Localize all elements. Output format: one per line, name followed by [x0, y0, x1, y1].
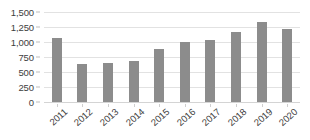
bar-2015 [154, 49, 164, 102]
x-axis-tick [185, 104, 186, 107]
bar-chart: 02505007501,0001,2501,500 20112012201320… [0, 0, 310, 140]
x-axis-tick-label: 2014 [123, 106, 146, 128]
x-axis-tick-label: 2012 [72, 106, 95, 128]
bar-2014 [129, 61, 139, 102]
y-axis-tick [36, 57, 40, 58]
x-axis-tick [236, 104, 237, 107]
gridline [44, 102, 300, 103]
bar-2011 [52, 38, 62, 103]
x-axis-tick-label: 2015 [149, 106, 172, 128]
y-axis-tick [36, 12, 40, 13]
y-axis-tick-label: 0 [29, 97, 34, 108]
y-axis-tick-label: 1,250 [11, 22, 34, 33]
x-axis-labels: 2011201220132014201520162017201820192020 [44, 104, 300, 140]
plot-area [44, 12, 300, 102]
x-axis-tick [134, 104, 135, 107]
bar-2013 [103, 63, 113, 102]
bar-2020 [282, 29, 292, 102]
bar-series [44, 12, 300, 102]
y-axis-tick [36, 27, 40, 28]
x-axis-tick-label: 2017 [200, 106, 223, 128]
bar-2016 [180, 42, 190, 102]
y-axis-tick-label: 500 [18, 67, 34, 78]
x-axis-tick [57, 104, 58, 107]
x-axis-tick-label: 2020 [277, 106, 300, 128]
y-axis-tick-label: 250 [18, 82, 34, 93]
x-axis-tick-label: 2013 [98, 106, 121, 128]
x-axis-tick [82, 104, 83, 107]
x-axis-tick [262, 104, 263, 107]
x-axis-tick [108, 104, 109, 107]
x-axis-tick [159, 104, 160, 107]
x-axis-tick-label: 2011 [47, 106, 69, 128]
bar-2019 [257, 22, 267, 102]
y-axis-tick-label: 750 [18, 52, 34, 63]
y-axis-tick [36, 72, 40, 73]
y-axis-tick-label: 1,500 [11, 7, 34, 18]
bar-2017 [205, 40, 215, 102]
bar-2012 [77, 64, 87, 102]
x-axis-tick-label: 2016 [174, 106, 197, 128]
x-axis-tick [287, 104, 288, 107]
x-axis-tick [210, 104, 211, 107]
bar-2018 [231, 32, 241, 102]
y-axis-tick-label: 1,000 [11, 37, 34, 48]
x-axis-tick-label: 2019 [251, 106, 274, 128]
y-axis-labels: 02505007501,0001,2501,500 [0, 0, 42, 140]
y-axis-tick [36, 87, 40, 88]
y-axis-tick [36, 42, 40, 43]
x-axis-tick-label: 2018 [226, 106, 249, 128]
y-axis-tick [36, 102, 40, 103]
